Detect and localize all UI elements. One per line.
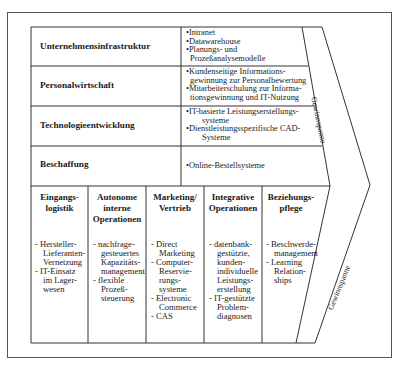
support-items: •Intranet •Datawarehouse •Planungs- und … (186, 29, 306, 63)
primary-items: - Hersteller- Lieferanten- Vernetzung - … (35, 240, 89, 294)
primary-items: - datenbank- gestützte, kunden- individu… (209, 240, 265, 321)
header-line: logistik (31, 203, 88, 214)
support-label: Technologieentwicklung (40, 120, 135, 130)
support-label: Beschaffung (40, 159, 89, 169)
support-item: Systeme (186, 134, 321, 143)
support-item: tionsgewinnung und IT-Nutzung (186, 94, 316, 103)
header-line: Autonome (88, 192, 146, 203)
header-line: Integrative (204, 192, 262, 203)
support-label: Unternehmensinfrastruktur (40, 41, 150, 51)
primary-item: - CAS (151, 312, 207, 321)
support-items: •Kundenseitige Informations- gewinnung z… (186, 68, 316, 102)
header-line: Beziehungs- (262, 192, 320, 203)
primary-item: ships (266, 276, 322, 285)
primary-header: Beziehungs- pflege (262, 192, 320, 214)
primary-header: Integrative Operationen (204, 192, 262, 214)
support-item: Prozeßanalysemodelle (186, 55, 306, 64)
support-items: •IT-basierte Leistungserstellungs- syste… (186, 108, 321, 142)
support-item: •Online-Bestellsysteme (186, 162, 265, 171)
primary-items: - Direct Marketing - Computer- Reservie-… (151, 240, 207, 321)
header-line: Marketing/ (146, 192, 204, 203)
primary-header: Eingangs- logistik (31, 192, 88, 214)
header-line: Vertrieb (146, 203, 204, 214)
support-label: Personalwirtschaft (40, 80, 114, 90)
primary-items: - nachfrage- gesteuertes Kapazitäts- man… (93, 240, 149, 303)
primary-header: Marketing/ Vertrieb (146, 192, 204, 214)
primary-header: Autonome interne Operationen (88, 192, 146, 225)
primary-item: steuerung (93, 294, 149, 303)
header-line: pflege (262, 203, 320, 214)
header-line: Operationen (204, 203, 262, 214)
primary-item: diagnosen (209, 312, 265, 321)
primary-item: wesen (35, 285, 89, 294)
header-line: Eingangs- (31, 192, 88, 203)
header-line: interne (88, 203, 146, 214)
primary-items: - Beschwerde- management - Learning Rela… (266, 240, 322, 285)
header-line: Operationen (88, 214, 146, 225)
